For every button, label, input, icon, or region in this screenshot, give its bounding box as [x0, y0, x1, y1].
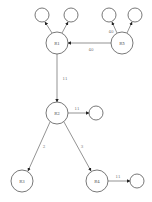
graph-diagram: 40 40 11 11 2 3 11 R1 R5 R2 R3 R4: [0, 0, 152, 202]
edge-label-r5-leaf: 40: [108, 29, 114, 34]
edge-r2-r3: [28, 122, 50, 171]
edge-label-r1-r2: 11: [62, 76, 67, 81]
node-label: R5: [119, 41, 125, 46]
edge-label-r2-leaf: 11: [74, 106, 79, 111]
edge-label-r5-r1: 40: [88, 47, 94, 52]
edge-label-r4-leaf: 11: [115, 174, 120, 179]
edge-r1-leaf-left: [45, 22, 52, 33]
edge-r1-leaf-right: [62, 22, 68, 33]
node-r3: R3: [11, 170, 33, 192]
node-r4: R4: [86, 170, 108, 192]
node-label: R4: [94, 179, 100, 184]
node-r2: R2: [46, 102, 68, 124]
node-r1: R1: [46, 32, 68, 54]
leaf-node: [130, 174, 144, 188]
edge-r5-leaf-right: [127, 22, 132, 33]
leaf-node: [102, 8, 116, 22]
node-label: R1: [54, 41, 60, 46]
leaf-node: [64, 8, 78, 22]
leaf-node: [128, 8, 142, 22]
node-label: R3: [19, 179, 25, 184]
leaf-node: [89, 106, 103, 120]
node-r5: R5: [111, 32, 133, 54]
edge-label-r2-r3: 2: [43, 144, 46, 149]
edge-label-r2-r4: 3: [81, 144, 84, 149]
leaf-node: [35, 8, 49, 22]
edge-r2-r4: [64, 122, 91, 171]
node-label: R2: [54, 111, 60, 116]
